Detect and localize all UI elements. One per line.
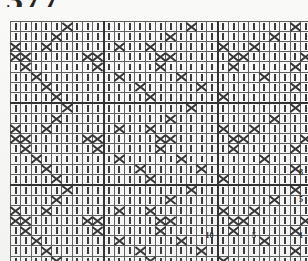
chart-cell[interactable]: [104, 52, 115, 62]
chart-cell[interactable]: [93, 103, 104, 114]
chart-cell[interactable]: [300, 113, 308, 123]
chart-cell[interactable]: [72, 144, 82, 154]
chart-cell[interactable]: [52, 42, 62, 52]
chart-cell[interactable]: [239, 144, 249, 154]
chart-cell[interactable]: [197, 154, 207, 164]
chart-cell[interactable]: [249, 205, 259, 215]
chart-cell[interactable]: [270, 52, 280, 62]
chart-cell[interactable]: [280, 236, 290, 246]
chart-cell[interactable]: [62, 52, 72, 62]
chart-cell[interactable]: [176, 226, 186, 236]
chart-cell[interactable]: [228, 42, 238, 52]
chart-cell[interactable]: [259, 216, 269, 226]
chart-cell[interactable]: [270, 144, 280, 154]
chart-cell[interactable]: [186, 174, 196, 185]
chart-cell[interactable]: [186, 92, 196, 103]
chart-cell[interactable]: [62, 82, 72, 92]
chart-cell[interactable]: [114, 134, 124, 144]
chart-cell[interactable]: [239, 103, 249, 114]
chart-cell[interactable]: [114, 174, 124, 185]
chart-cell[interactable]: [135, 236, 145, 246]
chart-cell[interactable]: [135, 216, 145, 226]
stitch-chart[interactable]: [10, 21, 298, 240]
chart-cell[interactable]: [155, 185, 165, 196]
chart-cell[interactable]: [155, 82, 165, 92]
chart-cell[interactable]: [41, 236, 51, 246]
chart-cell[interactable]: [259, 72, 269, 82]
chart-cell[interactable]: [270, 42, 280, 52]
chart-cell[interactable]: [114, 256, 124, 261]
chart-cell[interactable]: [125, 72, 135, 82]
chart-cell[interactable]: [186, 216, 196, 226]
chart-cell[interactable]: [239, 246, 249, 256]
chart-cell[interactable]: [290, 124, 300, 134]
chart-cell[interactable]: [197, 256, 207, 261]
chart-cell[interactable]: [114, 113, 124, 123]
chart-cell[interactable]: [166, 52, 176, 62]
chart-cell[interactable]: [186, 124, 196, 134]
chart-cell[interactable]: [249, 164, 259, 174]
chart-cell[interactable]: [21, 103, 31, 114]
chart-cell[interactable]: [21, 205, 31, 215]
chart-cell[interactable]: [114, 154, 124, 164]
chart-cell[interactable]: [145, 246, 155, 256]
chart-cell[interactable]: [72, 32, 82, 42]
chart-cell[interactable]: [41, 124, 51, 134]
chart-cell[interactable]: [41, 185, 51, 196]
chart-cell[interactable]: [280, 174, 290, 185]
chart-cell[interactable]: [218, 32, 229, 42]
chart-cell[interactable]: [239, 205, 249, 215]
chart-cell[interactable]: [155, 174, 165, 185]
chart-cell[interactable]: [31, 236, 41, 246]
chart-cell[interactable]: [270, 113, 280, 123]
chart-cell[interactable]: [259, 205, 269, 215]
chart-cell[interactable]: [186, 52, 196, 62]
chart-cell[interactable]: [155, 256, 165, 261]
chart-cell[interactable]: [166, 42, 176, 52]
chart-cell[interactable]: [93, 216, 104, 226]
chart-cell[interactable]: [176, 124, 186, 134]
chart-cell[interactable]: [155, 246, 165, 256]
chart-cell[interactable]: [104, 216, 115, 226]
chart-cell[interactable]: [125, 226, 135, 236]
chart-cell[interactable]: [93, 72, 104, 82]
chart-cell[interactable]: [31, 72, 41, 82]
chart-cell[interactable]: [228, 62, 238, 72]
chart-cell[interactable]: [197, 52, 207, 62]
chart-cell[interactable]: [280, 22, 290, 32]
chart-cell[interactable]: [41, 154, 51, 164]
chart-cell[interactable]: [31, 134, 41, 144]
chart-cell[interactable]: [207, 82, 218, 92]
chart-cell[interactable]: [125, 52, 135, 62]
chart-cell[interactable]: [104, 246, 115, 256]
chart-cell[interactable]: [218, 113, 229, 123]
chart-cell[interactable]: [290, 82, 300, 92]
chart-cell[interactable]: [280, 113, 290, 123]
chart-cell[interactable]: [31, 185, 41, 196]
chart-cell[interactable]: [125, 92, 135, 103]
chart-cell[interactable]: [228, 92, 238, 103]
chart-cell[interactable]: [155, 72, 165, 82]
chart-cell[interactable]: [290, 32, 300, 42]
chart-cell[interactable]: [166, 256, 176, 261]
chart-cell[interactable]: [186, 144, 196, 154]
chart-cell[interactable]: [41, 216, 51, 226]
chart-cell[interactable]: [31, 216, 41, 226]
chart-cell[interactable]: [186, 205, 196, 215]
chart-cell[interactable]: [207, 52, 218, 62]
chart-cell[interactable]: [93, 154, 104, 164]
chart-cell[interactable]: [280, 52, 290, 62]
chart-cell[interactable]: [31, 92, 41, 103]
chart-cell[interactable]: [176, 62, 186, 72]
chart-cell[interactable]: [72, 22, 82, 32]
chart-cell[interactable]: [239, 164, 249, 174]
chart-cell[interactable]: [228, 246, 238, 256]
chart-cell[interactable]: [93, 113, 104, 123]
chart-cell[interactable]: [166, 164, 176, 174]
chart-cell[interactable]: [52, 246, 62, 256]
chart-cell[interactable]: [176, 164, 186, 174]
chart-cell[interactable]: [62, 124, 72, 134]
chart-cell[interactable]: [218, 185, 229, 196]
chart-cell[interactable]: [166, 72, 176, 82]
chart-cell[interactable]: [62, 113, 72, 123]
